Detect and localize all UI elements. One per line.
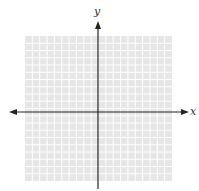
coordinate-plane xyxy=(0,0,199,191)
y-axis-label: y xyxy=(94,6,100,17)
x-axis-label: x xyxy=(190,106,196,117)
x-axis-right-arrow-icon xyxy=(181,109,189,115)
x-axis-left-arrow-icon xyxy=(9,109,17,115)
y-axis-up-arrow-icon xyxy=(95,21,101,29)
